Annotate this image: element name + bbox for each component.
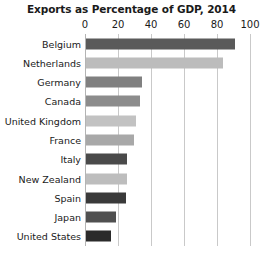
category-label-germany: Germany	[0, 77, 81, 88]
gridline-100	[250, 34, 251, 246]
category-label-united-states: United States	[0, 231, 81, 242]
category-label-canada: Canada	[0, 96, 81, 107]
bar-japan	[86, 212, 116, 223]
x-tick-label-40: 40	[145, 19, 158, 30]
category-label-france: France	[0, 135, 81, 146]
plot-area	[85, 34, 250, 246]
category-label-japan: Japan	[0, 212, 81, 223]
x-tick-label-20: 20	[112, 19, 125, 30]
category-label-spain: Spain	[0, 192, 81, 203]
category-label-belgium: Belgium	[0, 38, 81, 49]
x-tick-label-100: 100	[240, 19, 259, 30]
x-tick-label-60: 60	[178, 19, 191, 30]
x-tick-label-0: 0	[82, 19, 88, 30]
bar-canada	[86, 96, 140, 107]
category-label-new-zealand: New Zealand	[0, 173, 81, 184]
category-label-italy: Italy	[0, 154, 81, 165]
bar-italy	[86, 154, 127, 165]
bar-new-zealand	[86, 173, 127, 184]
bar-chart: Exports as Percentage of GDP, 2014 02040…	[0, 0, 263, 254]
y-axis-category-labels: BelgiumNetherlandsGermanyCanadaUnited Ki…	[0, 34, 81, 246]
bar-france	[86, 135, 134, 146]
chart-title: Exports as Percentage of GDP, 2014	[0, 3, 263, 15]
bar-spain	[86, 192, 126, 203]
category-label-netherlands: Netherlands	[0, 57, 81, 68]
x-tick-label-80: 80	[211, 19, 224, 30]
bar-united-states	[86, 231, 111, 242]
bar-germany	[86, 77, 142, 88]
x-axis-tick-labels: 020406080100	[85, 19, 260, 33]
bar-united-kingdom	[86, 115, 136, 126]
bar-belgium	[86, 38, 235, 49]
category-label-united-kingdom: United Kingdom	[0, 115, 81, 126]
bar-netherlands	[86, 57, 223, 68]
